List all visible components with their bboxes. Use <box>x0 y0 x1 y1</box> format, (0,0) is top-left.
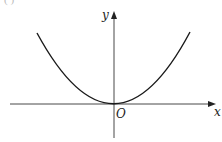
parabola-curve <box>37 32 190 104</box>
origin-label: O <box>116 107 126 121</box>
x-axis-label: x <box>214 105 221 119</box>
parabola-diagram: y O x <box>0 0 222 142</box>
y-axis-arrow-icon <box>111 11 117 19</box>
y-axis-label: y <box>101 8 109 22</box>
